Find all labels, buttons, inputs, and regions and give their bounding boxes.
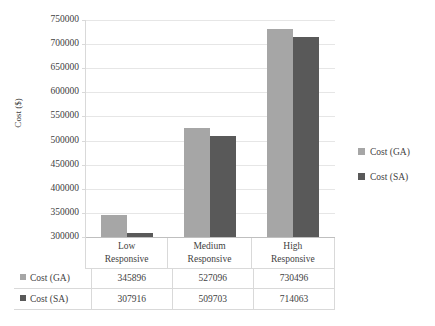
bar-costsa-2 — [293, 37, 319, 237]
legend-label: Cost (GA) — [370, 147, 410, 157]
x-axis-category-label-line: Responsive — [86, 253, 167, 266]
bar-chart: Cost ($) 7500007000006500006000005500005… — [0, 0, 435, 326]
x-axis-category-label-line: Low — [86, 240, 167, 253]
table-row-header: Cost (GA) — [14, 268, 91, 289]
legend-label: Cost (SA) — [370, 172, 408, 182]
bar-costga-1 — [184, 128, 210, 238]
x-axis-category-label-line: Responsive — [252, 253, 334, 266]
data-table: Cost (GA)345896527096730496Cost (SA)3079… — [14, 268, 335, 310]
table-cell: 345896 — [91, 268, 172, 289]
y-axis-tick-label: 600000 — [9, 86, 79, 96]
x-axis-category-label-line: High — [252, 240, 334, 253]
legend-swatch-icon — [358, 173, 365, 180]
bar-costga-0 — [101, 215, 127, 237]
y-axis-tick-label: 300000 — [9, 231, 79, 241]
series-swatch-icon — [20, 274, 26, 280]
series-swatch-icon — [20, 295, 26, 301]
legend-swatch-icon — [358, 148, 365, 155]
x-axis-category-label: LowResponsive — [85, 238, 168, 268]
table-cell: 527096 — [172, 268, 253, 289]
table-cell: 509703 — [172, 289, 253, 310]
y-axis-tick-label: 500000 — [9, 135, 79, 145]
x-axis-category-label-line: Responsive — [168, 253, 250, 266]
y-axis-tick-label: 650000 — [9, 62, 79, 72]
y-axis-tick-label: 450000 — [9, 159, 79, 169]
table-row-header-label: Cost (SA) — [30, 294, 68, 304]
x-axis-category-label: HighResponsive — [252, 238, 335, 268]
table-row-header-label: Cost (GA) — [30, 273, 70, 283]
y-axis-tick-label: 350000 — [9, 207, 79, 217]
y-axis-tick-label: 700000 — [9, 38, 79, 48]
y-axis-tick-label: 400000 — [9, 183, 79, 193]
table-row-header: Cost (SA) — [14, 289, 91, 310]
table-cell: 307916 — [91, 289, 172, 310]
table-row: Cost (SA)307916509703714063 — [14, 289, 335, 310]
bar-costga-2 — [267, 29, 293, 237]
table-row: Cost (GA)345896527096730496 — [14, 268, 335, 289]
bar-costsa-0 — [127, 233, 153, 237]
plot-area — [85, 20, 335, 237]
x-axis-category-band: LowResponsiveMediumResponsiveHighRespons… — [85, 238, 335, 269]
legend-item: Cost (GA) — [358, 139, 410, 164]
y-axis-tick-label: 750000 — [9, 14, 79, 24]
table-cell: 714063 — [253, 289, 334, 310]
y-axis-tick-label: 550000 — [9, 110, 79, 120]
x-axis-category-label-line: Medium — [168, 240, 250, 253]
x-axis-category-label: MediumResponsive — [168, 238, 251, 268]
legend: Cost (GA)Cost (SA) — [358, 139, 410, 189]
table-cell: 730496 — [253, 268, 334, 289]
legend-item: Cost (SA) — [358, 164, 410, 189]
bar-costsa-1 — [210, 136, 236, 237]
